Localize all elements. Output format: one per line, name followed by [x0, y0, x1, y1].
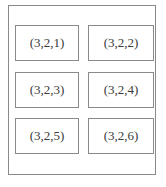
subplot-label: (3,2,1)	[30, 35, 65, 51]
subplot-label: (3,2,3)	[30, 82, 65, 98]
subplot-cell-6: (3,2,6)	[88, 118, 154, 154]
subplot-cell-5: (3,2,5)	[15, 118, 79, 154]
subplot-label: (3,2,5)	[30, 128, 65, 144]
subplot-label: (3,2,6)	[104, 128, 139, 144]
subplot-cell-2: (3,2,2)	[88, 25, 154, 61]
subplot-label: (3,2,2)	[104, 35, 139, 51]
subplot-label: (3,2,4)	[104, 82, 139, 98]
subplot-cell-1: (3,2,1)	[15, 25, 79, 61]
subplot-cell-3: (3,2,3)	[15, 72, 79, 108]
subplot-cell-4: (3,2,4)	[88, 72, 154, 108]
